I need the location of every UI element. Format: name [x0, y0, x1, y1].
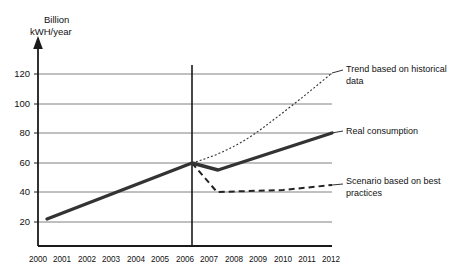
x-tick-label-2006: 2006 — [176, 255, 195, 264]
x-tick-label-2007: 2007 — [200, 255, 219, 264]
y-tick-label-20: 20 — [19, 216, 30, 227]
x-tick-label-2000: 2000 — [29, 255, 48, 264]
annotation-trend-line1: Trend based on historical — [346, 64, 447, 74]
chart-canvas: Billion kWH/year 120 100 80 60 40 20 200… — [0, 0, 464, 277]
x-tick-label-2009: 2009 — [249, 255, 268, 264]
x-tick-label-2011: 2011 — [298, 255, 316, 264]
annotation-scenario-line2: practices — [346, 188, 383, 198]
y-axis-title-line2: kWH/year — [30, 26, 72, 37]
x-tick-label-2008: 2008 — [225, 255, 244, 264]
leader-line-real — [332, 131, 343, 133]
y-axis-arrow-icon — [33, 36, 43, 49]
annotation-real-line1: Real consumption — [346, 126, 418, 136]
y-tick-label-80: 80 — [19, 127, 30, 138]
series-line-real-consumption — [47, 133, 332, 219]
y-axis — [33, 36, 43, 246]
x-tick-label-2003: 2003 — [102, 255, 121, 264]
series-line-trend — [192, 73, 332, 163]
annotation-trend-line2: data — [346, 76, 364, 86]
y-tick-label-40: 40 — [19, 186, 30, 197]
annotation-scenario-line1: Scenario based on best — [346, 176, 441, 186]
x-tick-label-2004: 2004 — [127, 255, 146, 264]
y-tick-label-100: 100 — [14, 98, 30, 109]
x-tick-label-2005: 2005 — [151, 255, 170, 264]
y-tick-label-120: 120 — [14, 68, 30, 79]
y-axis-title-line1: Billion — [44, 14, 69, 25]
y-tick-label-60: 60 — [19, 157, 30, 168]
leader-line-trend — [332, 70, 343, 73]
x-tick-label-2002: 2002 — [78, 255, 97, 264]
x-tick-label-2001: 2001 — [53, 255, 72, 264]
energy-consumption-chart: Billion kWH/year 120 100 80 60 40 20 200… — [0, 0, 464, 277]
leader-line-scenario — [332, 184, 343, 185]
x-tick-label-2012: 2012 — [322, 255, 341, 264]
x-tick-label-2010: 2010 — [274, 255, 293, 264]
